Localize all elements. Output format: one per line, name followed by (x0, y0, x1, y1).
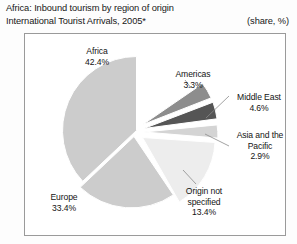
pie-label-africa: Africa 42.4% (62, 46, 132, 67)
pie-label-europe-value: 33.4% (33, 203, 95, 214)
figure-root: Africa: Inbound tourism by region of ori… (0, 0, 297, 244)
pie-label-origin-name-line2: specified (170, 197, 238, 208)
pie-label-middle-east-value: 4.6% (224, 103, 294, 114)
pie-label-middle-east: Middle East 4.6% (224, 92, 294, 113)
pie-label-americas-name: Americas (175, 69, 210, 79)
pie-label-africa-name: Africa (86, 46, 107, 56)
pie-label-asia-pacific-name-line2: Pacific (224, 141, 296, 152)
pie-label-europe: Europe 33.4% (33, 192, 95, 213)
pie-label-asia-pacific-value: 2.9% (224, 151, 296, 162)
pie-label-africa-value: 42.4% (62, 57, 132, 68)
pie-label-asia-pacific: Asia and the Pacific 2.9% (224, 130, 296, 162)
pie-label-origin-name-line1: Origin not (186, 186, 222, 196)
pie-label-americas: Americas 3.3% (162, 69, 224, 90)
pie-label-origin-value: 13.4% (170, 207, 238, 218)
pie-label-origin-not-specified: Origin not specified 13.4% (170, 186, 238, 218)
pie-label-europe-name: Europe (50, 192, 77, 202)
pie-label-asia-pacific-name-line1: Asia and the (237, 130, 284, 140)
pie-label-middle-east-name: Middle East (237, 92, 281, 102)
pie-label-americas-value: 3.3% (162, 80, 224, 91)
